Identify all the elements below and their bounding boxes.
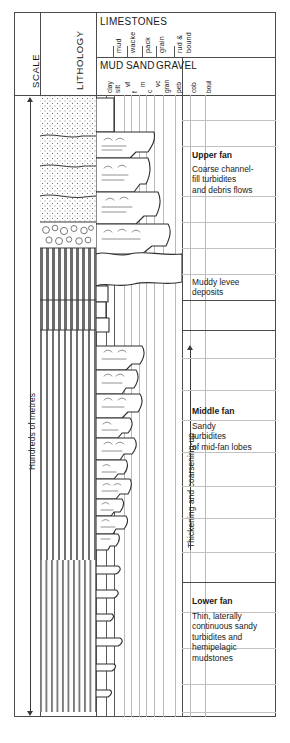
limestone-tick-wacke bbox=[127, 46, 128, 57]
notes-rule-16 bbox=[182, 684, 276, 685]
limestone-tick-mud bbox=[113, 46, 114, 57]
notes-rule-3 bbox=[182, 196, 276, 197]
notes-rule-8 bbox=[182, 390, 276, 391]
scale-axis-label: Hundreds of metres bbox=[27, 393, 37, 470]
notes-rule-4 bbox=[182, 222, 276, 223]
clastic-group-sand: SAND bbox=[126, 60, 155, 71]
grainsize-class-vc: vc bbox=[154, 80, 161, 87]
notes-rule-12 bbox=[182, 518, 276, 519]
limestone-tick-grain bbox=[156, 46, 157, 57]
limestone-class-mud: mud bbox=[114, 38, 123, 53]
grainsize-notes-divider bbox=[182, 57, 183, 717]
limestone-class-rud: rud & bbox=[175, 35, 184, 53]
bed-profile-log bbox=[96, 96, 182, 717]
clastic-group-mud: MUD bbox=[100, 60, 123, 71]
lithology-column-header: LITHOLOGY bbox=[74, 30, 85, 90]
notes-rule-levee-top bbox=[182, 300, 276, 301]
facies-title-lower-fan: Lower fan bbox=[192, 596, 272, 606]
limestone-header-rule bbox=[96, 57, 276, 58]
notes-rule-levee-bottom bbox=[182, 330, 276, 331]
limestone-tick-rudbound bbox=[174, 46, 175, 57]
trend-arrow-head bbox=[187, 345, 193, 350]
notes-rule-7 bbox=[182, 358, 276, 359]
limestone-class-bound: bound bbox=[184, 32, 193, 53]
grainsize-class-silt: silt bbox=[114, 85, 121, 93]
facies-description-middle-fan: Sandy turbidites of mid-fan lobes bbox=[192, 421, 272, 452]
limestone-tick-pack bbox=[142, 46, 143, 57]
grainsize-class-boul: boul bbox=[205, 81, 212, 93]
notes-rule-1 bbox=[182, 120, 276, 121]
notes-rule-2 bbox=[182, 146, 276, 147]
limestones-header: LIMESTONES bbox=[100, 16, 167, 27]
grainsize-class-gran: gran bbox=[163, 80, 170, 93]
grainsize-class-clay: clay bbox=[106, 81, 113, 93]
clastic-group-gravel: GRAVEL bbox=[156, 60, 197, 71]
notes-rule-5 bbox=[182, 248, 276, 249]
grainsize-class-vf: vf bbox=[124, 82, 131, 87]
notes-rule-17 bbox=[182, 712, 276, 713]
facies-description-upper-fan: Coarse channel- fill turbidites and debr… bbox=[192, 164, 272, 195]
grainsize-class-m: m bbox=[139, 82, 146, 88]
scale-arrow-head-bottom bbox=[27, 711, 33, 716]
facies-title-middle-fan: Middle fan bbox=[192, 406, 272, 416]
stratigraphic-log-figure: SCALE LITHOLOGY LIMESTONES mud wacke pac… bbox=[0, 0, 290, 743]
notes-rule-13 bbox=[182, 552, 276, 553]
lithology-contacts bbox=[40, 96, 96, 717]
grainsize-class-cob: cob bbox=[190, 82, 197, 93]
limestone-class-grain: grain bbox=[157, 36, 166, 53]
scale-arrow-head-top bbox=[27, 97, 33, 102]
limestone-class-wacke: wacke bbox=[128, 32, 137, 53]
facies-title-upper-fan: Upper fan bbox=[192, 150, 272, 160]
scale-column-header: SCALE bbox=[30, 54, 41, 88]
facies-description-lower-fan: Thin, laterally continuous sandy turbidi… bbox=[192, 611, 272, 663]
grainsize-class-peb: peb bbox=[175, 82, 182, 93]
notes-rule-6 bbox=[182, 274, 276, 275]
notes-rule-11 bbox=[182, 486, 276, 487]
limestone-class-pack: pack bbox=[143, 37, 152, 53]
grainsize-class-f: f bbox=[131, 91, 138, 93]
grainsize-class-c: c bbox=[146, 90, 153, 93]
facies-description-levee: Muddy levee deposits bbox=[192, 277, 272, 298]
notes-rule-lower-top bbox=[182, 582, 276, 583]
scale-arrow-shaft bbox=[30, 101, 31, 713]
